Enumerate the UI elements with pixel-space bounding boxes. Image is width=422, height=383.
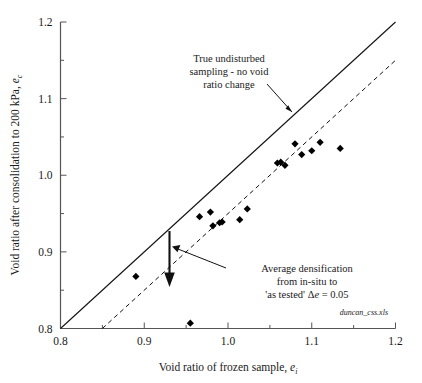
y-tick-label: 1.1 bbox=[38, 93, 53, 105]
chart-figure: 0.80.91.01.11.20.80.91.01.11.2 True undi… bbox=[0, 0, 422, 383]
y-tick-label: 0.9 bbox=[38, 246, 53, 258]
x-axis-title-main: Void ratio of frozen sample, bbox=[159, 361, 290, 374]
x-tick-label: 1.1 bbox=[305, 335, 320, 347]
scatter-plot-svg: 0.80.91.01.11.20.80.91.01.11.2 True undi… bbox=[0, 0, 422, 383]
bottom-annotation-line2: from in-situ to bbox=[277, 276, 338, 287]
x-tick-label: 1.0 bbox=[221, 335, 236, 347]
y-axis-title-sub: c bbox=[15, 74, 24, 78]
file-tag-label: duncan_css.xls bbox=[340, 308, 388, 317]
x-tick-label: 1.2 bbox=[388, 335, 403, 347]
top-annotation-line2: sampling - no void bbox=[189, 66, 269, 77]
bottom-annotation-prefix: 'as tested' bbox=[265, 289, 307, 300]
x-tick-label: 0.9 bbox=[137, 335, 152, 347]
y-axis-title-main: Void ratio after consolidation to 200 kP… bbox=[9, 83, 22, 275]
y-tick-label: 1.0 bbox=[38, 169, 53, 181]
bottom-annotation-line1: Average densification bbox=[261, 263, 353, 274]
x-axis-title-sub: i bbox=[295, 367, 297, 376]
y-tick-label: 1.2 bbox=[38, 16, 53, 28]
top-annotation-line1: True undisturbed bbox=[193, 53, 265, 64]
top-annotation-line3: ratio change bbox=[203, 79, 255, 90]
x-tick-label: 0.8 bbox=[53, 335, 68, 347]
bottom-annotation-line3: 'as tested' Δe = 0.05 bbox=[265, 289, 348, 300]
bottom-annotation-suffix: = 0.05 bbox=[319, 289, 349, 300]
y-tick-label: 0.8 bbox=[38, 323, 53, 335]
